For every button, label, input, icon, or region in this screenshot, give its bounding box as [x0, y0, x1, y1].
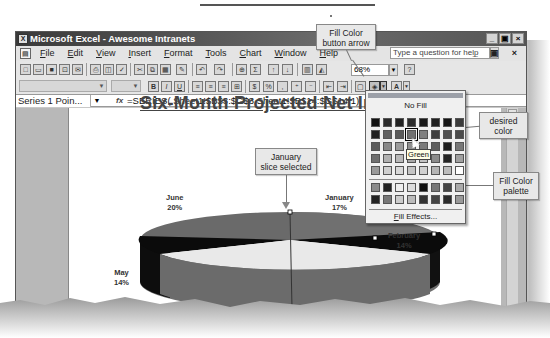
- paste-icon[interactable]: ▦: [160, 64, 171, 75]
- autosum-icon[interactable]: Σ: [250, 64, 261, 75]
- color-swatch[interactable]: [419, 166, 428, 175]
- name-box[interactable]: Series 1 Poin...: [16, 95, 91, 107]
- spelling-icon[interactable]: ✓: [116, 64, 127, 75]
- align-right-icon[interactable]: ≡: [218, 81, 229, 92]
- color-swatch[interactable]: [431, 166, 440, 175]
- selection-handle[interactable]: [432, 232, 436, 236]
- color-swatch[interactable]: [383, 154, 392, 163]
- data-label-february[interactable]: February 14%: [388, 231, 420, 251]
- color-swatch[interactable]: [443, 166, 452, 175]
- workbook-icon[interactable]: ▤: [20, 48, 31, 59]
- color-swatch[interactable]: [371, 166, 380, 175]
- help-icon[interactable]: ?: [404, 64, 415, 75]
- undo-icon[interactable]: ↶: [196, 64, 207, 75]
- print-preview-icon[interactable]: ◫: [103, 64, 114, 75]
- merge-center-icon[interactable]: ⊞: [231, 81, 242, 92]
- color-swatch[interactable]: [407, 166, 416, 175]
- color-swatch[interactable]: [371, 154, 380, 163]
- underline-icon[interactable]: U: [174, 81, 185, 92]
- color-swatch[interactable]: [395, 142, 404, 151]
- menu-insert[interactable]: Insert: [128, 46, 151, 61]
- color-swatch[interactable]: [371, 142, 380, 151]
- sort-ascending-icon[interactable]: ↑: [268, 64, 279, 75]
- color-swatch[interactable]: [431, 142, 440, 151]
- color-swatch[interactable]: [419, 130, 428, 139]
- font-dropdown-arrow[interactable]: ▼: [97, 81, 106, 91]
- name-box-dropdown-arrow[interactable]: ▼: [92, 95, 102, 107]
- save-icon[interactable]: ■: [46, 64, 57, 75]
- color-swatch[interactable]: [455, 166, 464, 175]
- increase-indent-icon[interactable]: ⇥: [337, 81, 348, 92]
- selection-handle[interactable]: [288, 210, 292, 214]
- color-swatch[interactable]: [371, 130, 380, 139]
- email-icon[interactable]: ✉: [72, 64, 83, 75]
- color-swatch[interactable]: [419, 118, 428, 127]
- font-size-dropdown-arrow[interactable]: ▼: [131, 81, 140, 91]
- font-size-combo[interactable]: ▼: [111, 80, 141, 92]
- menu-edit[interactable]: Edit: [68, 46, 84, 61]
- currency-icon[interactable]: $: [249, 81, 260, 92]
- chart-color-swatch[interactable]: [407, 183, 416, 192]
- color-swatch[interactable]: [383, 118, 392, 127]
- chart-color-swatch[interactable]: [383, 195, 392, 204]
- menu-chart[interactable]: Chart: [239, 46, 261, 61]
- color-swatch[interactable]: [395, 130, 404, 139]
- color-swatch[interactable]: [383, 166, 392, 175]
- chart-color-swatch[interactable]: [395, 195, 404, 204]
- data-label-may[interactable]: May 14%: [114, 268, 129, 288]
- decrease-decimal-icon[interactable]: ⁻: [305, 81, 316, 92]
- color-swatch[interactable]: [443, 118, 452, 127]
- chart-color-swatch[interactable]: [419, 195, 428, 204]
- fill-effects-option[interactable]: Fill Effects...: [366, 212, 465, 221]
- comma-style-icon[interactable]: ,: [277, 81, 288, 92]
- color-swatch[interactable]: [431, 154, 440, 163]
- menu-window[interactable]: Window: [274, 46, 306, 61]
- menu-format[interactable]: Format: [164, 46, 193, 61]
- chart-wizard-icon[interactable]: ▥: [302, 64, 313, 75]
- chart-color-swatch[interactable]: [395, 183, 404, 192]
- menu-file[interactable]: File: [40, 46, 55, 61]
- redo-icon[interactable]: ↷: [214, 64, 225, 75]
- copy-icon[interactable]: ⧉: [147, 64, 158, 75]
- format-painter-icon[interactable]: ✎: [176, 64, 187, 75]
- color-swatch[interactable]: [455, 118, 464, 127]
- chart-color-swatch[interactable]: [443, 183, 452, 192]
- data-label-june[interactable]: June 20%: [166, 193, 184, 213]
- permission-icon[interactable]: ⊡: [59, 64, 70, 75]
- insert-function-icon[interactable]: fx: [116, 95, 123, 107]
- color-swatch[interactable]: [395, 118, 404, 127]
- new-icon[interactable]: □: [20, 64, 31, 75]
- menu-view[interactable]: View: [96, 46, 115, 61]
- color-swatch[interactable]: [455, 154, 464, 163]
- no-fill-option[interactable]: No Fill: [366, 101, 465, 110]
- color-swatch[interactable]: [407, 118, 416, 127]
- color-swatch[interactable]: [431, 118, 440, 127]
- increase-decimal-icon[interactable]: ⁺: [291, 81, 302, 92]
- hyperlink-icon[interactable]: ⊕: [236, 64, 247, 75]
- decrease-indent-icon[interactable]: ⇤: [323, 81, 334, 92]
- color-swatch[interactable]: [443, 142, 452, 151]
- color-swatch[interactable]: [443, 154, 452, 163]
- chart-color-swatch[interactable]: [455, 195, 464, 204]
- minimize-button[interactable]: _: [486, 33, 498, 44]
- sort-descending-icon[interactable]: ↓: [282, 64, 293, 75]
- bold-icon[interactable]: B: [148, 81, 159, 92]
- chart-color-swatch[interactable]: [455, 183, 464, 192]
- align-left-icon[interactable]: ≡: [192, 81, 203, 92]
- chart-color-swatch[interactable]: [407, 195, 416, 204]
- restore-button[interactable]: ▣: [499, 33, 511, 44]
- color-swatch[interactable]: [383, 142, 392, 151]
- selection-handle[interactable]: [373, 236, 377, 240]
- menu-tools[interactable]: Tools: [205, 46, 226, 61]
- chart-color-swatch[interactable]: [383, 183, 392, 192]
- zoom-dropdown-arrow[interactable]: ▼: [389, 64, 398, 76]
- chart-color-swatch[interactable]: [443, 195, 452, 204]
- palette-drag-handle[interactable]: [368, 93, 463, 98]
- align-center-icon[interactable]: ≡: [205, 81, 216, 92]
- workbook-window-controls[interactable]: _ ▣ ×: [473, 46, 522, 61]
- color-swatch[interactable]: [395, 166, 404, 175]
- color-swatch[interactable]: [383, 130, 392, 139]
- chart-color-swatch[interactable]: [431, 183, 440, 192]
- drawing-icon[interactable]: ◭: [316, 64, 327, 75]
- data-label-january[interactable]: January 17%: [325, 193, 354, 213]
